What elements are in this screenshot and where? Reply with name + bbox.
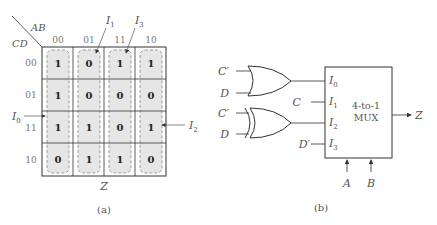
kmap-row-header: 10 (25, 155, 37, 165)
kmap-cell: 1 (117, 154, 124, 165)
kmap-cell: 1 (55, 122, 62, 133)
caption-a: (a) (97, 204, 111, 215)
mux-output-label: Z (414, 109, 423, 122)
kmap-cell: 0 (148, 90, 155, 101)
xor-input-label: D (219, 128, 229, 141)
kmap-row-header: 11 (25, 123, 36, 133)
kmap-output-label: Z (99, 180, 108, 193)
kmap-cell: 0 (86, 90, 93, 101)
diagram-canvas: AB CD 00 01 11 10 00 01 11 10 1 0 1 1 1 … (0, 0, 437, 225)
kmap-cell: 0 (86, 58, 93, 69)
or-gate (248, 66, 291, 96)
kmap-cell: 1 (86, 122, 93, 133)
xor-input-label: C′ (218, 107, 229, 120)
mux-i3-source-label: D′ (298, 138, 311, 151)
or-input-label: D (219, 87, 229, 100)
kmap-cell: 1 (148, 58, 155, 69)
kmap-row-var-label: CD (12, 38, 28, 49)
kmap-col-header: 11 (114, 35, 125, 45)
i3-label: I3 (134, 14, 144, 29)
kmap-cell: 0 (148, 154, 155, 165)
select-b-label: B (366, 177, 375, 190)
kmap-col-var-label: AB (30, 22, 46, 33)
kmap-cell: 1 (117, 58, 124, 69)
kmap-row-header: 00 (25, 58, 37, 68)
mux-label-line2: MUX (354, 112, 379, 123)
caption-b: (b) (314, 202, 328, 213)
i2-label: I2 (188, 119, 198, 134)
i0-label: I0 (11, 110, 21, 125)
kmap-cell: 0 (117, 122, 124, 133)
kmap-row-header: 01 (25, 90, 36, 100)
i3-pointer-arrow (126, 28, 135, 53)
kmap-cell: 1 (55, 90, 62, 101)
mux-i1-source-label: C (293, 96, 302, 109)
kmap-cell: 0 (55, 154, 62, 165)
kmap-col-header: 01 (83, 35, 94, 45)
kmap-cell: 1 (55, 58, 62, 69)
kmap-col-header: 00 (52, 35, 64, 45)
kmap-col-header: 10 (145, 35, 157, 45)
karnaugh-map: AB CD 00 01 11 10 00 01 11 10 1 0 1 1 1 … (11, 14, 198, 215)
xor-gate (245, 108, 291, 138)
mux-circuit: C′ D C′ D C D′ I0 I1 I2 I3 4-to-1 MUX Z … (218, 65, 423, 213)
i1-pointer-arrow (96, 28, 106, 53)
kmap-cell: 1 (148, 122, 155, 133)
kmap-cell: 1 (86, 154, 93, 165)
or-input-label: C′ (218, 65, 229, 78)
kmap-cell: 0 (117, 90, 124, 101)
select-a-label: A (342, 177, 351, 190)
i1-label: I1 (105, 14, 115, 29)
mux-label-line1: 4-to-1 (352, 100, 380, 111)
